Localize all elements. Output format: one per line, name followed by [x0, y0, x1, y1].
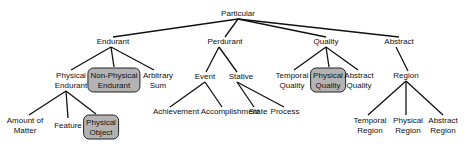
node-quality: Quality: [314, 37, 339, 47]
node-physical-endurant: PhysicalEndurant: [55, 71, 87, 90]
edge-abstract-to-region: [396, 47, 408, 71]
node-label-line: Region: [393, 71, 418, 81]
edge-quality-to-physical-quality: [326, 47, 329, 67]
node-label-line: Region: [428, 125, 457, 135]
node-label-line: Physical: [86, 118, 116, 128]
node-label-line: Physical: [313, 71, 343, 81]
node-label-line: Achievement: [153, 107, 199, 117]
node-arbitrary-sum: ArbitrarySum: [143, 71, 173, 90]
node-temporal-region: TemporalRegion: [354, 116, 387, 135]
node-physical-object: PhysicalObject: [83, 115, 119, 140]
node-label-line: Stative: [229, 72, 253, 82]
node-label-line: Quality: [313, 80, 343, 90]
node-process: Process: [271, 107, 300, 117]
node-amount-of-matter: Amount ofMatter: [7, 116, 43, 135]
node-label-line: Non-Physical: [90, 71, 137, 81]
edge-stative-to-state: [237, 82, 254, 107]
node-abstract-quality: AbstractQuality: [344, 71, 373, 90]
node-label-line: Quality: [276, 80, 309, 90]
node-label-line: Temporal: [276, 71, 309, 81]
edge-particular-to-perdurant: [225, 19, 238, 37]
node-abstract: Abstract: [384, 37, 413, 47]
node-label-line: Quality: [314, 37, 339, 47]
ontology-tree-diagram: ParticularEndurantPerdurantQualityAbstra…: [0, 0, 468, 147]
node-label-line: Matter: [7, 125, 43, 135]
edge-event-to-accomplishment: [205, 82, 222, 107]
node-stative: Stative: [229, 72, 253, 82]
edge-physical-endurant-to-physical-object: [66, 91, 96, 114]
node-label-line: Sum: [143, 80, 173, 90]
node-non-physical-endurant: Non-PhysicalEndurant: [87, 68, 140, 93]
node-label-line: Quality: [344, 80, 373, 90]
node-label-line: Feature: [54, 121, 82, 131]
node-event: Event: [195, 72, 215, 82]
node-achievement: Achievement: [153, 107, 199, 117]
node-label-line: Endurant: [90, 80, 137, 90]
node-particular: Particular: [221, 9, 255, 19]
node-label-line: Endurant: [97, 37, 129, 47]
node-label-line: State: [249, 107, 268, 117]
edge-physical-endurant-to-feature: [66, 91, 68, 118]
node-label-line: Physical: [393, 116, 423, 126]
node-label-line: Abstract: [428, 116, 457, 126]
edge-event-to-achievement: [170, 82, 205, 107]
node-region: Region: [393, 71, 418, 81]
node-label-line: Abstract: [344, 71, 373, 81]
node-label-line: Object: [86, 127, 116, 137]
node-endurant: Endurant: [97, 37, 129, 47]
edge-perdurant-to-event: [206, 47, 219, 72]
edge-endurant-to-non-physical-endurant: [111, 47, 114, 67]
node-label-line: Arbitrary: [143, 71, 173, 81]
node-label-line: Region: [354, 125, 387, 135]
node-physical-region: PhysicalRegion: [393, 116, 423, 135]
node-abstract-region: AbstractRegion: [428, 116, 457, 135]
node-state: State: [249, 107, 268, 117]
node-feature: Feature: [54, 121, 82, 131]
edge-perdurant-to-stative: [219, 47, 237, 72]
node-label-line: Event: [195, 72, 215, 82]
node-label-line: Region: [393, 125, 423, 135]
node-label-line: Endurant: [55, 80, 87, 90]
node-label-line: Amount of: [7, 116, 43, 126]
node-label-line: Process: [271, 107, 300, 117]
node-label-line: Perdurant: [207, 37, 242, 47]
edge-region-to-temporal-region: [368, 81, 406, 115]
node-temporal-quality: TemporalQuality: [276, 71, 309, 90]
node-label-line: Physical: [55, 71, 87, 81]
node-label-line: Particular: [221, 9, 255, 19]
edge-physical-endurant-to-amount-of-matter: [29, 91, 66, 115]
node-physical-quality: PhysicalQuality: [310, 68, 346, 93]
edge-particular-to-abstract: [238, 19, 399, 37]
edge-region-to-abstract-region: [406, 81, 443, 115]
node-label-line: Temporal: [354, 116, 387, 126]
node-perdurant: Perdurant: [207, 37, 242, 47]
edge-particular-to-endurant: [113, 19, 238, 37]
node-label-line: Abstract: [384, 37, 413, 47]
